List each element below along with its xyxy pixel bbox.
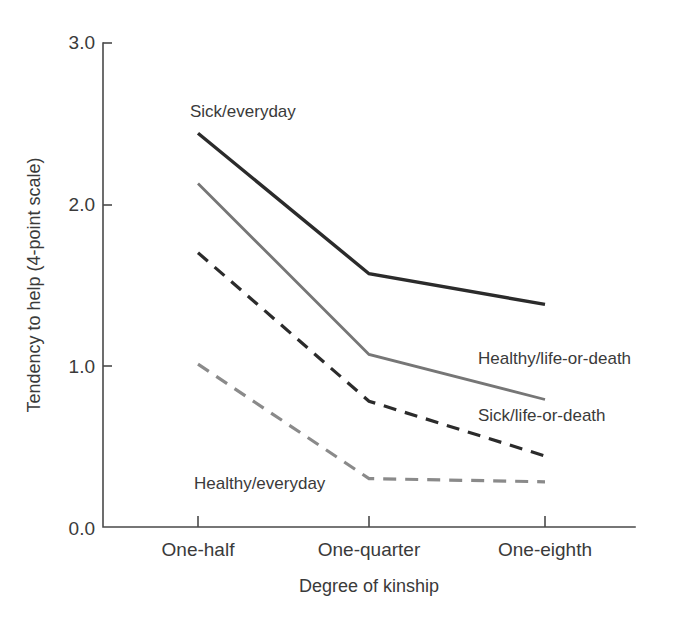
line-chart: Tendency to help (4-point scale) 3.0 2.0…: [0, 0, 696, 626]
y-tick-label-1: 1.0: [69, 356, 95, 377]
axis-spine: [103, 43, 635, 527]
chart-figure: Tendency to help (4-point scale) 3.0 2.0…: [0, 0, 696, 626]
x-tick-label-one-half: One-half: [162, 539, 236, 560]
x-axis-title: Degree of kinship: [299, 576, 439, 596]
figure-bottom-margin: [0, 620, 696, 626]
series-label-layer: Sick/everydayHealthy/life-or-deathSick/l…: [190, 102, 631, 493]
y-tick-label-3: 3.0: [69, 32, 95, 53]
x-tick-label-one-quarter: One-quarter: [318, 539, 421, 560]
series-label-healthy-life-or-death: Healthy/life-or-death: [478, 349, 631, 368]
y-tick-label-2: 2.0: [69, 194, 95, 215]
series-label-healthy-everyday: Healthy/everyday: [194, 474, 326, 493]
series-layer: [198, 133, 545, 482]
y-tick-label-0: 0.0: [69, 518, 95, 539]
series-line-sick-everyday: [198, 133, 545, 304]
x-tick-label-one-eighth: One-eighth: [498, 539, 592, 560]
series-label-sick-everyday: Sick/everyday: [190, 102, 296, 121]
y-axis-title: Tendency to help (4-point scale): [24, 157, 44, 412]
series-label-sick-life-or-death: Sick/life-or-death: [478, 406, 606, 425]
